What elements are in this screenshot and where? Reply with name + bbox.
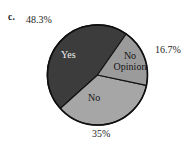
pie-slice-label-no-opinion: No Opinion xyxy=(109,50,151,72)
pie-slice-label-no-opinion-line2: Opinion xyxy=(109,61,151,72)
pie-slice-label-no-opinion-line1: No xyxy=(109,50,151,61)
pie-percent-label-yes: 48.3% xyxy=(26,14,52,25)
pie-percent-label-no: 35% xyxy=(92,128,110,139)
pie-chart-figure: c. Yes No No Opinion 48.3% 35% 16.7% xyxy=(0,0,196,149)
pie-slice-label-no: No xyxy=(88,92,100,103)
pie-percent-label-no-opinion: 16.7% xyxy=(155,44,181,55)
pie-slice-label-yes: Yes xyxy=(61,49,76,60)
